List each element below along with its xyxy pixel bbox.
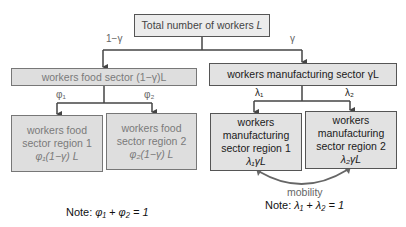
- food-region-2-node: workers food sector region 2 φ₂(1−γ) L: [106, 113, 197, 170]
- edge-label-lambda2: λ₂: [345, 87, 354, 98]
- manufacturing-sector-node: workers manufacturing sector γL: [209, 63, 397, 86]
- edge-label-phi1: φ₁: [56, 89, 66, 100]
- edge-label-1-minus-gamma: 1−γ: [106, 33, 122, 44]
- mobility-arc: [260, 170, 347, 184]
- food-region-1-node: workers food sector region 1 φ₁(1−γ) L: [11, 115, 103, 172]
- mobility-label: mobility: [287, 186, 323, 198]
- edge-label-phi2: φ₂: [144, 89, 154, 100]
- manufacturing-region-1-node: workers manufacturing sector region 1 λ₁…: [210, 113, 302, 171]
- edge-label-lambda1: λ₁: [255, 87, 263, 98]
- manufacturing-note: Note: λ₁ + λ₂ = 1: [265, 199, 344, 211]
- food-sector-node: workers food sector (1−γ)L: [11, 68, 197, 86]
- total-workers-node: Total number of workers L: [134, 14, 270, 37]
- food-note: Note: φ₁ + φ₂ = 1: [66, 206, 149, 218]
- edge-label-gamma: γ: [290, 33, 295, 44]
- manufacturing-region-2-node: workers manufacturing sector region 2 λ₂…: [305, 111, 397, 169]
